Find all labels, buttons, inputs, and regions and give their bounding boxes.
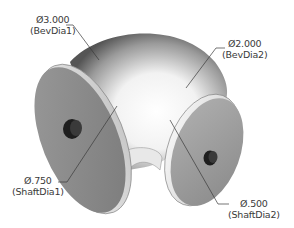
dimension-label-shaftdia2[interactable]: Ø.500 (ShaftDia2): [228, 198, 280, 220]
dimension-value: Ø2.000: [222, 38, 267, 49]
dimension-name: (ShaftDia2): [228, 209, 280, 220]
dimension-name: (BevDia2): [222, 49, 267, 60]
dimension-label-bevdia1[interactable]: Ø3.000 (BevDia1): [30, 14, 75, 36]
dimension-value: Ø3.000: [30, 14, 75, 25]
dimension-value: Ø.750: [12, 175, 64, 186]
dimension-name: (BevDia1): [30, 25, 75, 36]
dimension-label-bevdia2[interactable]: Ø2.000 (BevDia2): [222, 38, 267, 60]
dimension-value: Ø.500: [228, 198, 280, 209]
dimension-label-shaftdia1[interactable]: Ø.750 (ShaftDia1): [12, 175, 64, 197]
dimension-name: (ShaftDia1): [12, 186, 64, 197]
